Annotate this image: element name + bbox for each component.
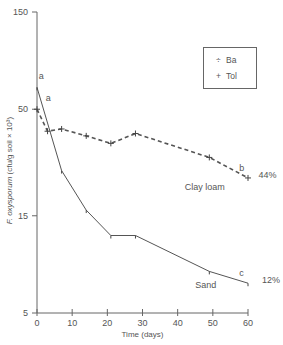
x-tick-label: 60 [243,318,253,328]
legend: ÷Ba +Tol [203,47,257,89]
x-tick-label: 10 [67,318,77,328]
y-axis-title-italic: F. oxysporum [5,176,14,224]
x-tick-label: 0 [34,318,39,328]
legend-item-ba: ÷Ba [216,55,236,65]
annotation: Sand [195,280,216,290]
x-tick-label: 50 [208,318,218,328]
annotation: 12% [262,275,280,285]
plus-marker-icon: + [216,71,226,81]
legend-item-tol: +Tol [216,71,237,81]
y-tick-label: 150 [13,7,28,17]
annotation: b [239,163,244,173]
x-tick-label: 20 [102,318,112,328]
x-tick-label: 30 [137,318,147,328]
divide-marker-icon: ÷ [216,55,226,65]
y-tick-label: 50 [18,104,28,114]
y-axis-title: F. oxysporum (cfu/g soil × 10³) [5,117,14,225]
y-tick-label: 5 [23,308,28,318]
legend-label: Ba [226,55,236,65]
annotation: 44% [259,170,277,180]
y-axis-title-rest: (cfu/g soil × 10³) [5,117,14,177]
x-tick-label: 40 [173,318,183,328]
annotation: a [46,93,51,103]
legend-label: Tol [226,71,237,81]
x-axis-title: Time (days) [122,330,164,339]
y-tick-label: 15 [18,211,28,221]
annotations-layer: aaClay loamb44%Sandc12% [39,71,280,290]
annotation: c [239,268,244,278]
annotation: Clay loam [185,182,225,192]
series-clay-loam [37,109,248,178]
annotation: a [39,71,44,81]
